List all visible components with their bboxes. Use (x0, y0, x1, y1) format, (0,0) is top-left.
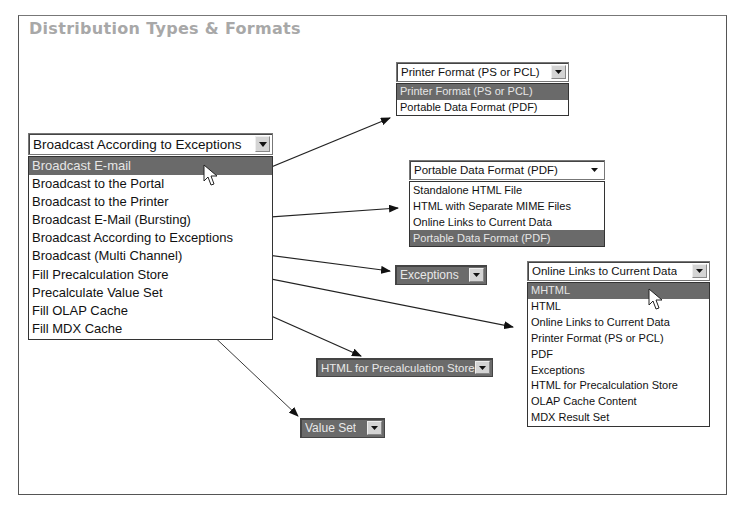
list-item[interactable]: Broadcast According to Exceptions (29, 229, 272, 247)
value-set-select[interactable]: Value Set (300, 418, 385, 438)
list-item[interactable]: MDX Result Set (528, 410, 709, 426)
select-value: Broadcast According to Exceptions (33, 134, 242, 154)
select-value: Online Links to Current Data (532, 262, 677, 280)
distribution-type-select[interactable]: Broadcast According to Exceptions (28, 133, 273, 155)
list-item[interactable]: Portable Data Format (PDF) (410, 230, 604, 246)
select-value: Exceptions (400, 266, 459, 284)
distribution-type-list: Broadcast E-mail Broadcast to the Portal… (28, 156, 273, 340)
list-item[interactable]: Fill Precalculation Store (29, 266, 272, 284)
list-item[interactable]: HTML for Precalculation Store (528, 378, 709, 394)
chevron-down-icon (479, 366, 486, 370)
select-value: Portable Data Format (PDF) (414, 161, 558, 179)
dropdown-button[interactable] (587, 163, 602, 177)
select-value: Value Set (305, 419, 356, 437)
list-item[interactable]: Printer Format (PS or PCL) (397, 84, 568, 100)
dropdown-button[interactable] (367, 421, 382, 435)
dropdown-button[interactable] (692, 264, 707, 278)
list-item[interactable]: Online Links to Current Data (410, 214, 604, 230)
printer-format-select[interactable]: Printer Format (PS or PCL) (396, 62, 569, 82)
pdf-format-select[interactable]: Portable Data Format (PDF) (409, 160, 605, 180)
list-item[interactable]: Broadcast to the Portal (29, 175, 272, 193)
list-item[interactable]: HTML (528, 299, 709, 315)
list-item[interactable]: Fill MDX Cache (29, 320, 272, 338)
printer-format-list: Printer Format (PS or PCL) Portable Data… (396, 83, 569, 116)
list-item[interactable]: Broadcast E-Mail (Bursting) (29, 211, 272, 229)
exceptions-select[interactable]: Exceptions (395, 265, 487, 285)
list-item[interactable]: Standalone HTML File (410, 182, 604, 198)
pdf-format-list: Standalone HTML File HTML with Separate … (409, 181, 605, 247)
precalculation-format-select[interactable]: HTML for Precalculation Store (316, 358, 493, 377)
dropdown-button[interactable] (469, 268, 484, 282)
chevron-down-icon (259, 142, 267, 147)
dropdown-button[interactable] (551, 65, 566, 79)
chevron-down-icon (555, 70, 562, 74)
chevron-down-icon (696, 269, 703, 273)
select-value: HTML for Precalculation Store (321, 359, 475, 376)
list-item[interactable]: MHTML (528, 283, 709, 299)
chevron-down-icon (371, 426, 378, 430)
list-item[interactable]: Online Links to Current Data (528, 315, 709, 331)
list-item[interactable]: Broadcast to the Printer (29, 193, 272, 211)
list-item[interactable]: Precalculate Value Set (29, 284, 272, 302)
chevron-down-icon (591, 168, 598, 172)
chevron-down-icon (473, 273, 480, 277)
list-item[interactable]: Exceptions (528, 363, 709, 379)
list-item[interactable]: Portable Data Format (PDF) (397, 100, 568, 116)
list-item[interactable]: Fill OLAP Cache (29, 302, 272, 320)
mouse-pointer-icon (203, 164, 219, 188)
mouse-pointer-icon (648, 288, 664, 312)
list-item[interactable]: PDF (528, 347, 709, 363)
list-item[interactable]: OLAP Cache Content (528, 394, 709, 410)
list-item[interactable]: Broadcast E-mail (29, 157, 272, 175)
list-item[interactable]: HTML with Separate MIME Files (410, 198, 604, 214)
list-item[interactable]: Printer Format (PS or PCL) (528, 331, 709, 347)
list-item[interactable]: Broadcast (Multi Channel) (29, 247, 272, 265)
dropdown-button[interactable] (255, 136, 270, 152)
multichannel-format-list: MHTML HTML Online Links to Current Data … (527, 282, 710, 427)
dropdown-button[interactable] (475, 361, 490, 374)
multichannel-format-select[interactable]: Online Links to Current Data (527, 261, 710, 281)
select-value: Printer Format (PS or PCL) (401, 63, 540, 81)
